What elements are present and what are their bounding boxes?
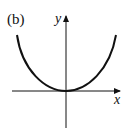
panel-label: (b)	[7, 12, 25, 27]
parabola-figure: (b) y x	[0, 0, 131, 131]
x-axis-label: x	[114, 93, 120, 107]
y-axis-label: y	[55, 12, 61, 26]
